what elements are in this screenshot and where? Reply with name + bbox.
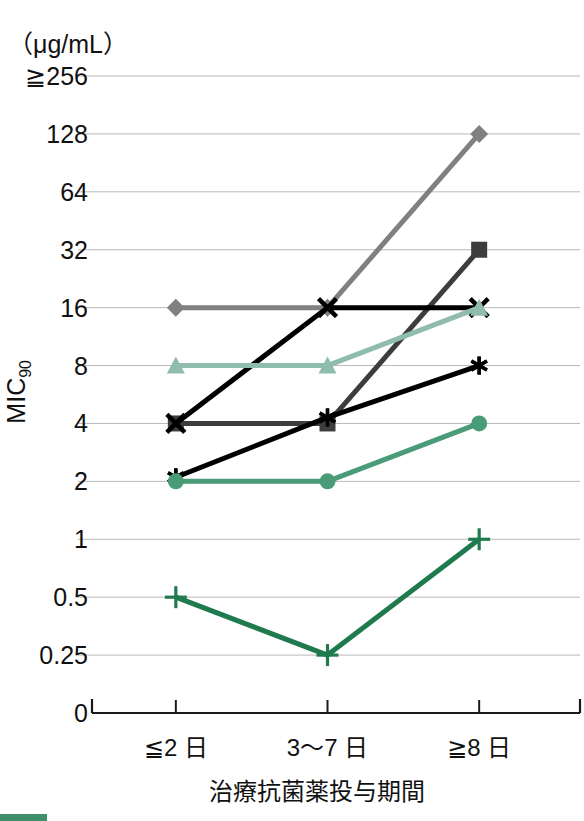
mic90-line-chart: （μg/mL） MIC90 ≧25612864321684210.50.250 … [0,0,584,821]
corner-accent-bar [0,814,47,821]
series-square-darkgray [168,242,487,432]
marker-circle [168,473,184,489]
y-tick-3: 32 [0,237,88,262]
y-tick-10: 0.25 [0,643,88,668]
y-tick-11: 0 [0,701,88,726]
marker-diamond [167,299,185,317]
y-tick-9: 0.5 [0,585,88,610]
series-diamond-gray [167,125,488,317]
y-tick-7: 2 [0,469,88,494]
x-tick-2: ≧8 日 [447,728,511,763]
marker-square [471,242,487,258]
series-line [176,250,479,424]
y-tick-2: 64 [0,179,88,204]
x-tick-1: 3〜7 日 [287,728,368,763]
y-tick-8: 1 [0,527,88,552]
series-line [176,423,479,481]
x-tick-0: ≦2 日 [144,728,208,763]
series-layer [165,125,490,666]
y-tick-1: 128 [0,121,88,146]
y-tick-5: 8 [0,353,88,378]
y-tick-4: 16 [0,295,88,320]
marker-plus [165,586,187,608]
unit-label: （μg/mL） [8,24,128,60]
x-axis-title: 治療抗菌薬投与期間 [209,772,425,807]
marker-circle [320,473,336,489]
series-line [176,134,479,308]
axis-lines [92,699,580,713]
y-tick-0: ≧256 [0,64,88,89]
y-tick-6: 4 [0,411,88,436]
marker-circle [471,415,487,431]
